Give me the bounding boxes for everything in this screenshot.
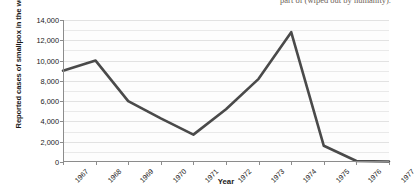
y-tick-mark <box>60 40 63 41</box>
y-tick-mark <box>60 20 63 21</box>
y-tick-label: 12,000 <box>36 36 59 45</box>
x-tick-mark <box>356 162 357 165</box>
x-tick-mark <box>193 162 194 165</box>
y-tick-mark <box>60 142 63 143</box>
plot-area: 02,0004,0006,0008,00010,00012,00014,000 … <box>63 20 389 162</box>
y-axis-title: Reported cases of smallpox in the world <box>14 0 23 129</box>
x-tick-mark <box>324 162 325 165</box>
y-tick-label: 2,000 <box>41 137 60 146</box>
y-tick-mark <box>60 121 63 122</box>
x-tick-mark <box>63 162 64 165</box>
smallpox-line-chart: Reported cases of smallpox in the world … <box>0 7 399 195</box>
y-tick-mark <box>60 61 63 62</box>
x-tick-mark <box>161 162 162 165</box>
x-tick-mark <box>259 162 260 165</box>
y-tick-label: 10,000 <box>36 56 59 65</box>
y-tick-label: 6,000 <box>41 97 60 106</box>
x-tick-mark <box>128 162 129 165</box>
y-tick-mark <box>60 101 63 102</box>
x-tick-label: 1977 <box>399 167 416 185</box>
y-tick-label: 0 <box>55 158 59 167</box>
series-layer <box>63 20 389 162</box>
x-tick-mark <box>291 162 292 165</box>
x-axis-title: Year <box>63 177 389 186</box>
x-tick-mark <box>389 162 390 165</box>
y-tick-label: 8,000 <box>41 76 60 85</box>
y-tick-label: 14,000 <box>36 16 59 25</box>
caption-strip: part of (wiped out by humanity). <box>0 0 399 7</box>
x-tick-mark <box>226 162 227 165</box>
x-tick-mark <box>96 162 97 165</box>
caption-text: part of (wiped out by humanity). <box>280 0 391 5</box>
y-tick-mark <box>60 81 63 82</box>
y-tick-label: 4,000 <box>41 117 60 126</box>
y-axis-line <box>63 20 64 162</box>
data-line-smallpox-cases <box>63 32 389 161</box>
